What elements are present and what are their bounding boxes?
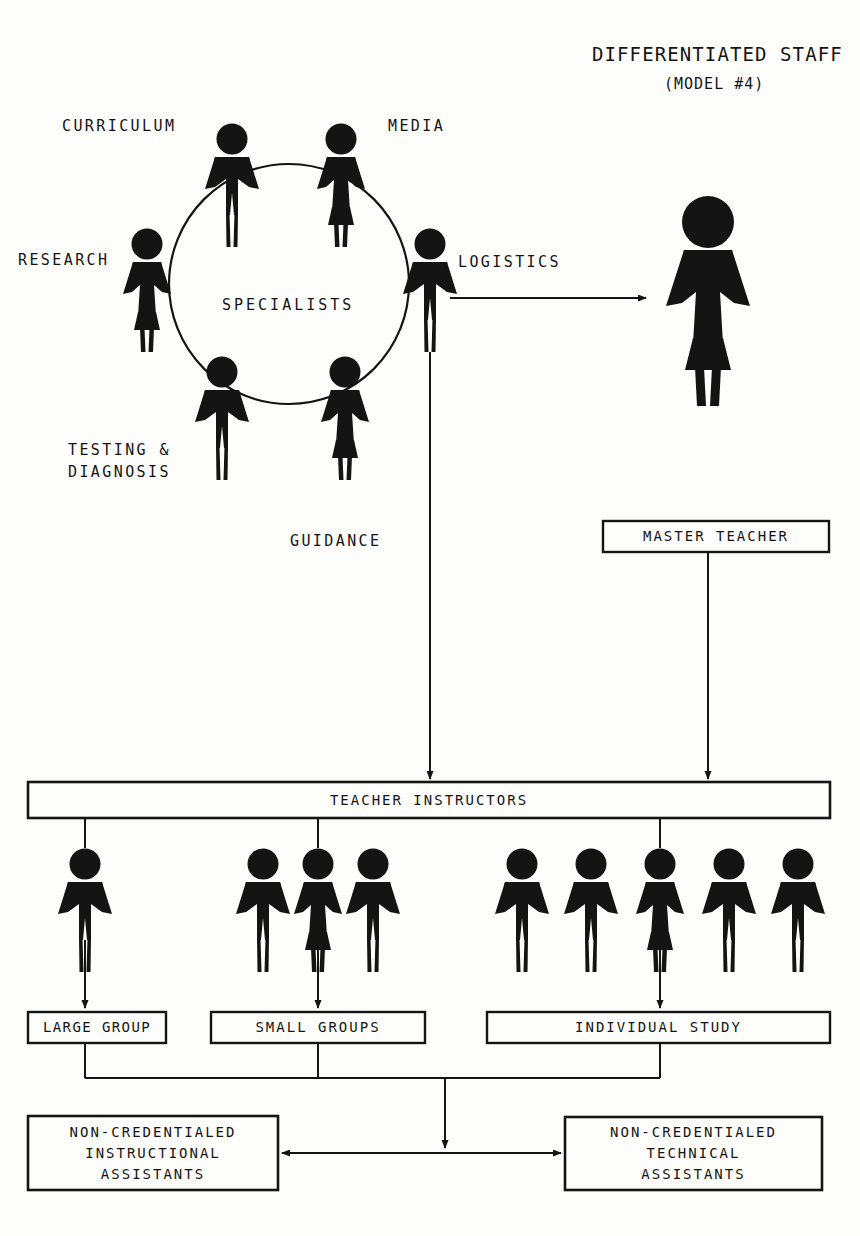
box-instructional-assistants-line1: NON-CREDENTIALED bbox=[70, 1122, 237, 1143]
box-individual-study[interactable]: INDIVIDUAL STUDY bbox=[487, 1012, 830, 1043]
specialist-label-guidance: GUIDANCE bbox=[290, 531, 381, 551]
box-master-teacher[interactable]: MASTER TEACHER bbox=[603, 521, 829, 552]
box-master-teacher-label: MASTER TEACHER bbox=[643, 526, 789, 547]
box-instructional-assistants-line3: ASSISTANTS bbox=[101, 1164, 205, 1185]
specialist-label-logistics: LOGISTICS bbox=[458, 252, 561, 272]
box-teacher-instructors[interactable]: TEACHER INSTRUCTORS bbox=[28, 782, 830, 818]
specialists-center-label: SPECIALISTS bbox=[222, 295, 354, 315]
box-technical-assistants[interactable]: NON-CREDENTIALED TECHNICAL ASSISTANTS bbox=[565, 1117, 822, 1190]
specialist-label-media: MEDIA bbox=[388, 116, 445, 136]
specialist-label-curriculum: CURRICULUM bbox=[62, 116, 176, 136]
page-title: DIFFERENTIATED STAFF bbox=[592, 42, 843, 68]
specialist-label-testing-diagnosis-line2: DIAGNOSIS bbox=[68, 462, 171, 482]
box-individual-study-label: INDIVIDUAL STUDY bbox=[575, 1017, 742, 1038]
diagram-artwork bbox=[0, 0, 860, 1236]
box-technical-assistants-line1: NON-CREDENTIALED bbox=[610, 1122, 777, 1143]
specialist-label-testing-diagnosis-line1: TESTING & bbox=[68, 440, 171, 460]
box-technical-assistants-line2: TECHNICAL bbox=[647, 1143, 741, 1164]
box-technical-assistants-line3: ASSISTANTS bbox=[641, 1164, 745, 1185]
box-instructional-assistants[interactable]: NON-CREDENTIALED INSTRUCTIONAL ASSISTANT… bbox=[28, 1116, 278, 1190]
box-teacher-instructors-label: TEACHER INSTRUCTORS bbox=[330, 790, 528, 811]
specialist-label-research: RESEARCH bbox=[18, 250, 109, 270]
box-small-groups-label: SMALL GROUPS bbox=[255, 1017, 380, 1038]
box-small-groups[interactable]: SMALL GROUPS bbox=[211, 1012, 425, 1043]
box-large-group[interactable]: LARGE GROUP bbox=[28, 1012, 166, 1043]
box-large-group-label: LARGE GROUP bbox=[43, 1017, 151, 1038]
box-instructional-assistants-line2: INSTRUCTIONAL bbox=[85, 1143, 221, 1164]
page-subtitle: (MODEL #4) bbox=[664, 74, 764, 94]
diagram-canvas: DIFFERENTIATED STAFF (MODEL #4) CURRICUL… bbox=[0, 0, 860, 1236]
